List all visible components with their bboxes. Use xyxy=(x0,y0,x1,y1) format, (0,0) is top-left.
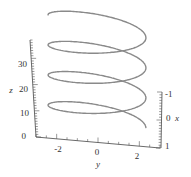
z-axis-line xyxy=(30,40,36,137)
helix-3d-plot: 0 10 20 30 z -2 0 2 y -1 0 1 x xyxy=(0,0,191,177)
x-tick-label-neg1: -1 xyxy=(165,89,173,99)
z-tick-label-20: 20 xyxy=(19,84,29,94)
y-tick-label-2: 2 xyxy=(135,151,140,161)
helix-curve xyxy=(48,11,146,127)
x-axis-ticks xyxy=(156,92,162,148)
x-axis-label: x xyxy=(174,113,179,123)
y-axis-label: y xyxy=(95,159,100,169)
z-axis-label: z xyxy=(8,85,13,95)
x-tick-label-0: 0 xyxy=(166,113,171,123)
z-tick-label-10: 10 xyxy=(20,108,30,118)
z-tick-label-0: 0 xyxy=(22,131,27,141)
y-tick-label-0: 0 xyxy=(95,147,100,157)
x-tick-label-1: 1 xyxy=(165,141,170,151)
z-tick-label-30: 30 xyxy=(18,59,28,69)
y-tick-label-neg2: -2 xyxy=(54,144,62,154)
